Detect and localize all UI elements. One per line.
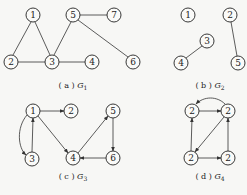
svg-text:3: 3	[29, 154, 35, 164]
node: 5	[106, 104, 120, 118]
node: 2	[221, 151, 235, 165]
node: 2	[221, 104, 235, 118]
node: 4	[66, 151, 80, 165]
node: 1	[26, 8, 40, 22]
caption-g4: ( d ) G4	[195, 172, 224, 182]
node: 3	[45, 55, 59, 69]
svg-text:2: 2	[225, 153, 231, 163]
svg-text:2: 2	[227, 10, 233, 20]
caption-g2: ( b ) G2	[195, 81, 224, 91]
node: 7	[107, 8, 121, 22]
svg-text:2: 2	[189, 106, 195, 116]
node: 3	[25, 152, 39, 166]
svg-text:5: 5	[235, 58, 241, 68]
svg-text:2: 2	[188, 153, 194, 163]
svg-text:2: 2	[8, 57, 14, 67]
node: 2	[223, 8, 237, 22]
svg-text:5: 5	[70, 10, 76, 20]
svg-text:6: 6	[130, 57, 136, 67]
svg-text:1: 1	[30, 106, 36, 116]
svg-text:4: 4	[89, 57, 95, 67]
svg-text:7: 7	[111, 10, 117, 20]
svg-text:6: 6	[110, 153, 116, 163]
node: 6	[126, 55, 140, 69]
node: 1	[181, 8, 195, 22]
node: 2	[185, 104, 199, 118]
node: 5	[231, 56, 245, 70]
graph-g1-nodes: 1 2 3 4 5 6 7	[4, 8, 140, 69]
node: 4	[174, 56, 188, 70]
node: 5	[66, 8, 80, 22]
node: 6	[106, 151, 120, 165]
graph-figure: 1 2 3 4 5 6 7 1 2 3 4 5 1 2 3 4 5 6 2 2 …	[0, 0, 247, 195]
svg-text:3: 3	[49, 57, 55, 67]
svg-text:2: 2	[68, 106, 74, 116]
node: 2	[4, 55, 18, 69]
node: 4	[85, 55, 99, 69]
node: 3	[200, 34, 214, 48]
node: 1	[26, 104, 40, 118]
graph-g3-nodes: 1 2 3 4 5 6	[25, 104, 120, 166]
svg-text:2: 2	[225, 106, 231, 116]
svg-text:1: 1	[30, 10, 36, 20]
svg-text:4: 4	[70, 153, 76, 163]
svg-text:1: 1	[185, 10, 191, 20]
svg-text:3: 3	[204, 36, 210, 46]
svg-text:5: 5	[110, 106, 116, 116]
graph-g1-edges	[13, 15, 128, 62]
svg-text:4: 4	[178, 58, 184, 68]
node: 2	[184, 151, 198, 165]
node: 2	[64, 104, 78, 118]
caption-g1: ( a ) G1	[59, 81, 88, 91]
caption-g3: ( c ) G3	[59, 172, 88, 182]
